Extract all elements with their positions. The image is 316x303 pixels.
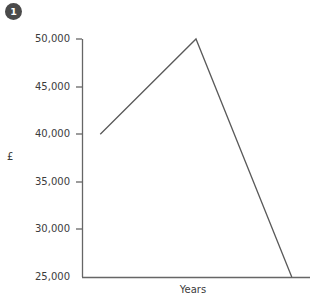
plot-area: [0, 0, 316, 303]
data-series-line: [100, 39, 292, 277]
y-axis-ticks: [76, 39, 82, 229]
axis-lines: [82, 39, 310, 278]
chart-figure: 1 £ Years 50,000 45,000 40,000 35,000 30…: [0, 0, 316, 303]
